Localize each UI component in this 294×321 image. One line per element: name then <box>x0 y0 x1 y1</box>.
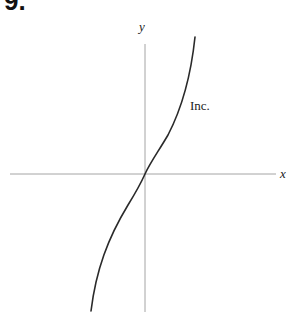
graph: x y Inc. <box>0 0 294 321</box>
x-axis-label: x <box>279 166 286 181</box>
curve-annotation: Inc. <box>190 98 210 113</box>
y-axis-label: y <box>137 19 145 34</box>
